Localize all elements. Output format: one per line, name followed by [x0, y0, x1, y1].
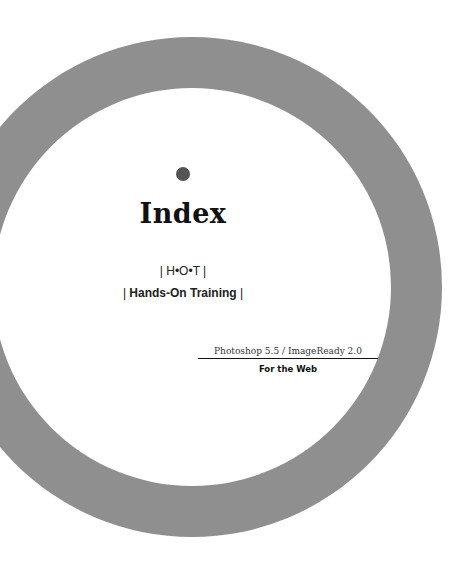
divider-rule: [198, 358, 378, 359]
series-mark: | H•O•T |: [0, 264, 366, 278]
series-name-line: | Hands-On Training |: [0, 286, 366, 300]
bullet-dot-icon: [176, 167, 190, 181]
page-title: Index: [0, 198, 366, 229]
edition-label: Photoshop 5.5 / ImageReady 2.0: [200, 346, 376, 356]
series-name-suffix: |: [237, 286, 243, 300]
subtitle-label: For the Web: [200, 364, 376, 374]
series-name: Hands-On Training: [129, 286, 236, 300]
